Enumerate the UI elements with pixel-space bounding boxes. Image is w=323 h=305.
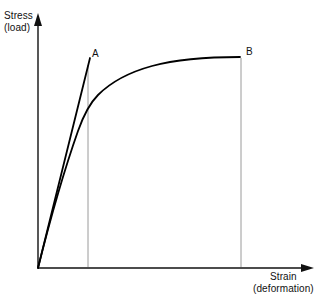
stress-strain-diagram: Stress (load) Strain (deformation) A B bbox=[0, 0, 323, 305]
y-axis-label: Stress (load) bbox=[4, 10, 33, 34]
x-axis-label: Strain (deformation) bbox=[253, 271, 314, 295]
y-axis-label-line2: (load) bbox=[4, 22, 33, 34]
x-axis-label-line2: (deformation) bbox=[253, 283, 314, 295]
y-axis-label-line1: Stress bbox=[4, 10, 33, 21]
point-b-label: B bbox=[246, 46, 253, 57]
y-axis-arrow-icon bbox=[34, 13, 42, 26]
x-axis-label-line1: Strain bbox=[270, 271, 297, 282]
point-a-label: A bbox=[92, 48, 99, 59]
stress-strain-curve bbox=[38, 57, 240, 268]
plot-canvas bbox=[0, 0, 323, 305]
